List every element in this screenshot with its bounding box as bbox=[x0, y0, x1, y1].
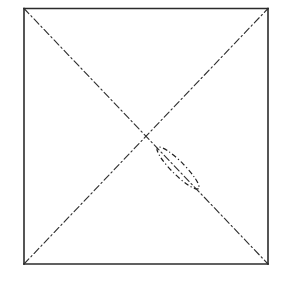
figure-container bbox=[0, 0, 281, 283]
geometric-figure-svg bbox=[0, 0, 281, 283]
figure-background bbox=[0, 0, 281, 283]
